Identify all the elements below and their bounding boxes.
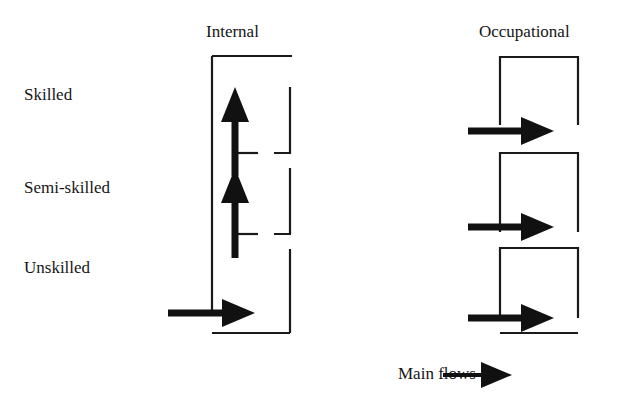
occupational-skilled-box — [500, 57, 578, 125]
occupational-flow-semiskilled — [468, 213, 554, 241]
internal-semiskilled-right-bracket — [274, 168, 290, 234]
internal-flow-up-1 — [221, 168, 249, 258]
diagram-svg — [0, 0, 626, 405]
occupational-flow-skilled — [468, 117, 554, 145]
occupational-column-frame — [500, 57, 578, 333]
internal-column-frame — [212, 56, 292, 333]
occupational-unskilled-box — [500, 248, 578, 318]
occupational-semiskilled-box — [500, 153, 578, 232]
legend-arrow-icon — [443, 362, 512, 388]
internal-flow-up-2 — [221, 87, 249, 176]
occupational-flow-unskilled — [468, 304, 554, 332]
diagram-canvas: Internal Occupational Skilled Semi-skill… — [0, 0, 626, 405]
internal-skilled-right-bracket — [274, 87, 290, 153]
